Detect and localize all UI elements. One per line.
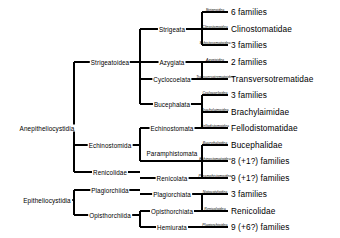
terminal-result: Renicolidae (231, 207, 275, 216)
terminal-result: 3 families (231, 91, 267, 100)
superfamily-label: Transversotrematoidea (196, 75, 234, 79)
terminal-result: 9 (+6?) families (231, 223, 290, 232)
cladogram: Anepitheliocystidia Epitheliocystidia St… (0, 0, 340, 238)
clade-label-bucephalata: Bucephalata (153, 101, 191, 108)
superfamily-label: Azygioidea (206, 58, 224, 62)
superfamily-label: Bucephaloidea (203, 141, 227, 145)
superfamily-label: Strigeoidea (206, 8, 225, 12)
terminal-result: Brachylaimidae (231, 108, 289, 117)
terminal-result: Fellodistomatidae (231, 124, 298, 133)
clade-label-strigeatoidea: Strigeatoidea (90, 59, 130, 66)
terminal-result: 6 families (231, 8, 267, 17)
terminal-result: 8 (+1?) families (231, 157, 290, 166)
clade-label-opisthorchiida: Opisthorchiida (88, 212, 132, 219)
clade-label-opisthorchiata: Opisthorchiata (150, 208, 194, 215)
superfamily-label: Cyclocoeloidea (202, 91, 227, 95)
clade-label-renicolidae: Renicolidae (92, 169, 128, 176)
clade-label-paramphistomata: Paramphistomata (146, 150, 199, 157)
superfamily-label: Fellodistomoidea (201, 124, 229, 128)
terminal-result: 9 (+1?) families (231, 174, 290, 183)
superfamily-label: Clinostomoidea (202, 25, 227, 29)
clade-label-echinostomida: Echinostomida (88, 142, 133, 149)
superfamily-label: Paramphistomoidea (199, 174, 232, 178)
clade-label-renicolata: Renicolata (156, 175, 189, 182)
terminal-result: 3 families (231, 41, 267, 50)
superfamily-label: Notocotyloidea (203, 190, 227, 194)
superfamily-label: Echinostomatoidea (199, 157, 230, 161)
clade-label-epitheliocystidia: Epitheliocystidia (22, 197, 72, 204)
terminal-result: 3 families (231, 190, 267, 199)
clade-label-cyclocoelata: Cyclocoelata (152, 76, 191, 83)
clade-label-hemiurata: Hemiurata (156, 224, 188, 231)
clade-label-strigeata: Strigeata (158, 26, 186, 33)
superfamily-label: Brachylaimoidea (201, 108, 228, 112)
superfamily-label: Renicoloidea (204, 207, 225, 211)
clade-label-plagiorchiata: Plagiorchiata (152, 191, 192, 198)
terminal-result: Bucephalidae (231, 141, 282, 150)
terminal-result: Transversotrematidae (231, 75, 313, 84)
terminal-result: 2 families (231, 58, 267, 67)
superfamily-label: Plagiorchioidea (202, 223, 227, 227)
superfamily-label: Schistosomatoidea (199, 41, 230, 45)
terminal-result: Clinostomatidae (231, 25, 292, 34)
clade-label-plagiorchiida: Plagiorchiida (90, 187, 129, 194)
clade-label-echinostomata: Echinostomata (150, 125, 195, 132)
clade-label-azygiata: Azygiata (159, 59, 186, 66)
clade-label-anepitheliocystidia: Anepitheliocystidia (19, 125, 76, 132)
